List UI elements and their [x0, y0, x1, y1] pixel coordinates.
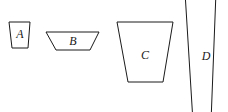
shape-label-b: B — [69, 34, 77, 48]
shape-label-a: A — [15, 27, 24, 41]
shape-outline-d — [185, 0, 216, 112]
shape-a: A — [9, 22, 30, 48]
shape-c: C — [117, 22, 173, 82]
trapezoid-figure: ABCD — [0, 0, 228, 112]
shape-label-c: C — [141, 48, 150, 62]
shape-label-d: D — [201, 49, 211, 63]
shape-b: B — [46, 32, 99, 50]
figure-canvas: ABCD — [0, 0, 228, 112]
shape-d: D — [185, 0, 216, 112]
